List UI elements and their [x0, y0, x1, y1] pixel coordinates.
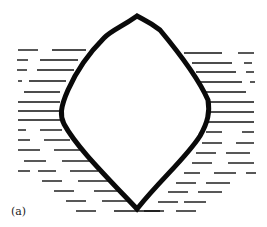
panel-label: (a) — [11, 205, 26, 218]
lens-outline — [61, 16, 208, 209]
lens-diagram: (a) — [0, 0, 267, 227]
